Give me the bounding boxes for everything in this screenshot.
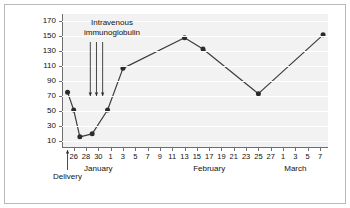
data-point-marker [90,131,95,136]
gridline [62,81,328,82]
series-line [68,35,324,137]
data-point-marker [65,90,70,95]
gridline [62,111,328,112]
data-point-marker [77,134,82,139]
ivig-annotation-line2: immunoglobulin [64,28,160,38]
gridline [62,66,328,67]
gridline [62,96,328,97]
ivig-annotation: Intravenous immunoglobulin [64,18,160,37]
gridline [62,51,328,52]
gridline [62,126,328,127]
gridline [62,141,328,142]
ivig-annotation-line1: Intravenous [64,18,160,28]
chart-figure: Platelet count 109/l 1030507090110130150… [0,0,350,208]
